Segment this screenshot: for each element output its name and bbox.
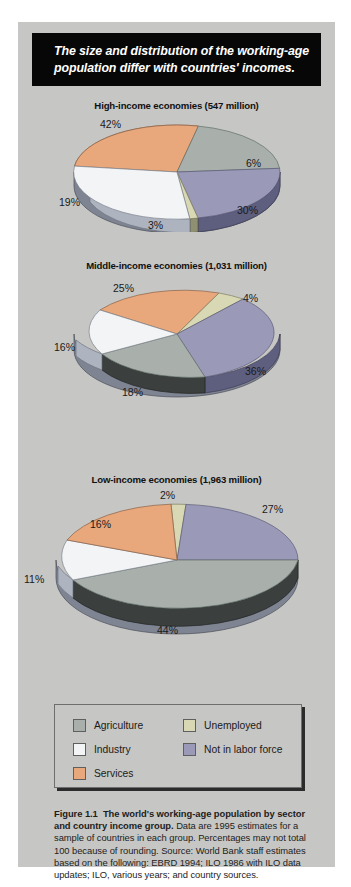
header-banner: The size and distribution of the working…: [32, 33, 321, 86]
figure-panel: The size and distribution of the working…: [18, 22, 335, 867]
pct-label-services-middle: 25%: [113, 282, 134, 294]
pct-label-industry-high: 19%: [59, 196, 80, 208]
pct-label-nilf-high: 30%: [237, 204, 258, 216]
caption-figure-number: Figure 1.1: [54, 808, 98, 819]
pie-svg-middle-income: [57, 274, 297, 402]
pie-low-income: 2% 27% 44% 11% 16%: [18, 488, 335, 638]
legend-swatch-agriculture-icon: [73, 719, 86, 732]
chart-title-low-income: Low-income economies (1,963 million): [18, 474, 335, 485]
legend-item-services: Services: [73, 767, 133, 780]
pct-label-nilf-middle: 36%: [245, 365, 266, 377]
pct-label-agriculture-middle: 18%: [122, 386, 143, 398]
legend-label-services: Services: [94, 768, 133, 779]
pct-label-unemployed-low: 2%: [160, 489, 175, 501]
legend-swatch-services-icon: [73, 767, 86, 780]
pct-label-unemployed-middle: 4%: [243, 292, 258, 304]
pie-svg-high-income: [57, 114, 297, 232]
legend-label-unemployed: Unemployed: [204, 720, 262, 731]
pct-label-services-high: 42%: [100, 118, 121, 130]
chart-title-middle-income: Middle-income economies (1,031 million): [18, 260, 335, 271]
pct-label-industry-low: 11%: [24, 573, 44, 585]
legend-item-unemployed: Unemployed: [183, 719, 262, 732]
legend-label-industry: Industry: [94, 744, 131, 755]
pct-label-services-low: 16%: [90, 518, 111, 530]
legend-item-not-in-labor-force: Not in labor force: [183, 743, 282, 756]
legend-swatch-unemployed-icon: [183, 719, 196, 732]
pct-label-unemployed-high: 3%: [148, 219, 163, 231]
pct-label-nilf-low: 27%: [262, 503, 283, 515]
pie-high-income: 42% 6% 30% 3% 19%: [18, 114, 335, 232]
pct-label-agriculture-low: 44%: [157, 624, 178, 636]
pie-middle-income: 25% 4% 36% 18% 16%: [18, 274, 335, 402]
legend-item-agriculture: Agriculture: [73, 719, 143, 732]
pct-label-industry-middle: 16%: [54, 341, 75, 353]
legend-swatch-not-in-labor-force-icon: [183, 743, 196, 756]
page-title: The size and distribution of the working…: [54, 43, 312, 76]
legend-swatch-industry-icon: [73, 743, 86, 756]
legend: Agriculture Industry Services Unemployed…: [54, 704, 302, 788]
legend-label-not-in-labor-force: Not in labor force: [204, 744, 282, 755]
chart-title-high-income: High-income economies (547 million): [18, 100, 335, 111]
pct-label-agriculture-high: 6%: [246, 157, 261, 169]
figure-caption: Figure 1.1 The world's working-age popul…: [54, 808, 306, 881]
legend-label-agriculture: Agriculture: [94, 720, 143, 731]
legend-item-industry: Industry: [73, 743, 131, 756]
